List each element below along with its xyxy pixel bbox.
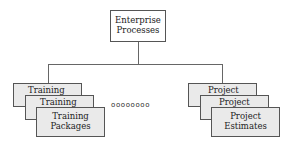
training-packages-line2: Packages bbox=[37, 121, 104, 131]
right-branch-connector bbox=[222, 64, 223, 83]
project-estimates-line2: Estimates bbox=[212, 121, 279, 131]
horizontal-connector bbox=[48, 64, 223, 65]
root-label-line1: Enterprise bbox=[111, 15, 165, 25]
root-label-line2: Processes bbox=[111, 25, 165, 35]
root-vertical-connector bbox=[138, 42, 139, 64]
project-estimates-box: Project Estimates bbox=[211, 107, 280, 137]
training-packages-line1: Training bbox=[37, 111, 104, 121]
project-middle-label: Project bbox=[201, 97, 268, 107]
project-estimates-line1: Project bbox=[212, 111, 279, 121]
ellipsis-dots: oooooooo bbox=[111, 101, 150, 109]
enterprise-processes-box: Enterprise Processes bbox=[110, 10, 166, 42]
training-middle-label: Training bbox=[26, 97, 93, 107]
project-back-label: Project bbox=[189, 85, 256, 95]
training-back-label: Training bbox=[14, 85, 81, 95]
left-branch-connector bbox=[48, 64, 49, 83]
training-packages-box: Training Packages bbox=[36, 107, 105, 137]
